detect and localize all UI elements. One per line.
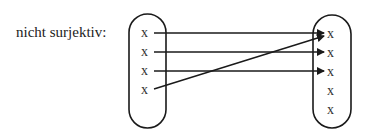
domain-element: x [141,25,148,40]
codomain-elements: x x x x x [327,26,334,117]
domain-element: x [141,82,148,97]
mapping-diagram: x x x x x x x x x [0,0,372,135]
codomain-element: x [327,83,334,98]
codomain-element: x [327,102,334,117]
domain-elements: x x x x [141,25,148,97]
codomain-element: x [327,64,334,79]
codomain-element: x [327,45,334,60]
domain-element: x [141,44,148,59]
codomain-element: x [327,26,334,41]
mapping-arrow [154,36,324,89]
domain-element: x [141,63,148,78]
